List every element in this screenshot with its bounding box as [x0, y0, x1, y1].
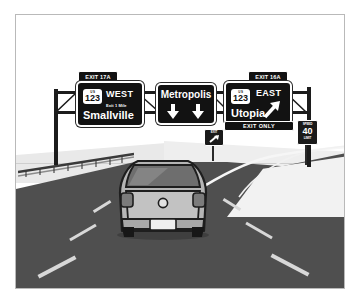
right-sign-exit-only-plaque: EXIT ONLY [224, 121, 294, 131]
left-sign-route-shield: U S 123 [83, 89, 102, 104]
center-sign-down-arrow-icon [166, 104, 180, 120]
right-sign-destination: Utopia [231, 108, 265, 119]
right-guide-sign: U S 123 East Utopia [224, 81, 292, 125]
speed-limit-sign: SPEED 40 LIMIT [297, 120, 318, 145]
left-sign-shield-number: 123 [85, 94, 100, 103]
right-sign-route-shield: U S 123 [231, 89, 250, 104]
speed-limit-bottom-text: LIMIT [298, 137, 317, 141]
grey-hatchback-car [108, 147, 218, 243]
left-guide-sign: U S 123 West Exit 1 Mile Smallville [76, 81, 144, 127]
left-sign-exit-tab-text: EXIT 17A [85, 74, 110, 80]
illustration-frame: EXIT 17A U S 123 West Exit 1 Mile Smallv… [15, 14, 345, 289]
center-sign-down-arrow-icon [191, 104, 205, 120]
gore-exit-sign-text: EXIT [205, 131, 223, 135]
right-sign-exit-tab-text: EXIT 16A [255, 74, 280, 80]
left-sign-direction: West [106, 90, 133, 99]
right-sign-direction: East [256, 89, 281, 98]
left-sign-destination: Smallville [83, 110, 134, 121]
gore-exit-sign-arrow-icon [209, 135, 220, 143]
left-sign-subline: Exit 1 Mile [106, 104, 127, 108]
center-sign-destination: Metropolis [158, 90, 214, 100]
center-guide-sign: Metropolis [156, 83, 216, 125]
illustration-scene: This exit will be on the left This exit … [0, 0, 360, 302]
gore-exit-sign: EXIT [204, 129, 224, 146]
right-sign-shield-number: 123 [233, 94, 248, 103]
right-sign-exit-only-text: EXIT ONLY [243, 123, 275, 129]
speed-limit-value: 40 [298, 127, 317, 136]
